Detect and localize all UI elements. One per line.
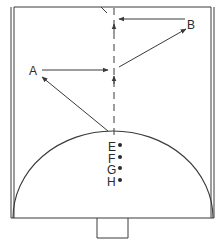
diagram-canvas: A B E F G H	[0, 0, 222, 243]
point-E-dot	[118, 143, 122, 147]
top-diagonal-tick	[101, 7, 107, 13]
label-A: A	[29, 64, 37, 78]
label-B: B	[187, 18, 195, 32]
point-F-dot	[118, 155, 122, 159]
label-H: H	[107, 175, 116, 189]
arrow-axis-to-B	[119, 29, 186, 67]
arrow-apex-to-A	[42, 77, 108, 131]
point-G-dot	[118, 166, 122, 170]
bottom-tab	[97, 218, 128, 238]
point-H-dot	[118, 178, 122, 182]
